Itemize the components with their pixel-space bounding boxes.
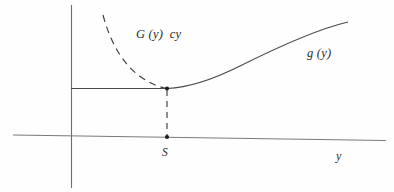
horizontal-axis [13,135,386,141]
x-axis-label: y [336,150,342,162]
figure-canvas [0,0,394,192]
kink-point-marker [165,86,169,90]
figure-container: G (y) cy g (y) S y [0,0,394,192]
kink-point-label: S [162,147,168,159]
lower-curve-label: g (y) [307,47,331,60]
upper-curve-label: G (y) cy [136,28,181,41]
axis-point-marker [165,135,169,139]
